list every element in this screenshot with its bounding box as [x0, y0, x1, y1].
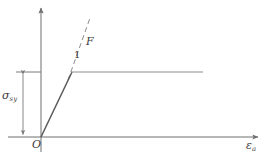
yield-stress-subscript: sy [10, 95, 18, 103]
slope-run-label: 1 [74, 50, 80, 60]
slope-modulus-label: F [86, 36, 94, 47]
yield-stress-label: σsy [2, 90, 17, 103]
origin-label: O [32, 139, 41, 150]
stress-strain-figure: σsy εa O F 1 [0, 0, 267, 160]
strain-axis-label: εa [246, 140, 256, 153]
elastic-branch [41, 72, 72, 137]
plot-canvas [0, 0, 267, 160]
strain-subscript: a [252, 145, 256, 153]
yield-stress-symbol: σ [2, 89, 10, 102]
